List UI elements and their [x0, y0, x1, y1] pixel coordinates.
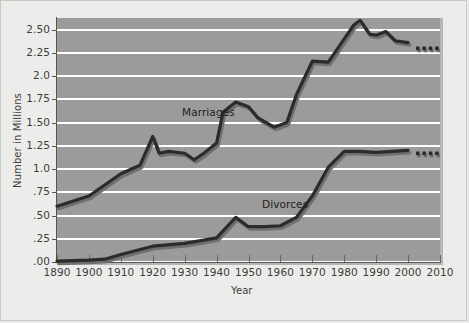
projection-marker-divorces — [429, 152, 433, 156]
series-lines — [57, 18, 440, 262]
x-tick-label: 2010 — [420, 266, 460, 278]
projection-marker-marriages — [429, 47, 433, 51]
y-tick-label: .25 — [2, 233, 50, 244]
series-line-shadow — [59, 153, 410, 264]
projection-marker-marriages — [422, 47, 426, 51]
y-axis-title: Number in Millions — [12, 81, 23, 201]
y-tick-label: 1.0 — [2, 163, 50, 174]
y-tick-label: 2.0 — [2, 70, 50, 81]
series-label-marriages: Marriages — [182, 106, 235, 118]
y-tick-label: .50 — [2, 210, 50, 221]
projection-marker-divorces — [422, 152, 426, 156]
y-tick-label: 1.25 — [2, 140, 50, 151]
chart-figure: .00.25.50.751.01.251.501.752.02.252.50 1… — [0, 0, 469, 323]
y-tick-label: 2.25 — [2, 47, 50, 58]
y-tick-label: 1.75 — [2, 93, 50, 104]
projection-marker-marriages — [435, 47, 439, 51]
y-tick-label: 2.50 — [2, 24, 50, 35]
projection-marker-divorces — [416, 152, 420, 156]
projection-marker-marriages — [416, 47, 420, 51]
x-axis-title: Year — [231, 285, 253, 296]
projection-marker-divorces — [435, 152, 439, 156]
series-label-divorces: Divorces — [262, 198, 308, 210]
y-tick-label: 1.50 — [2, 117, 50, 128]
x-axis-line — [56, 262, 441, 263]
y-tick-label: .75 — [2, 186, 50, 197]
series-line-divorces — [57, 150, 408, 261]
